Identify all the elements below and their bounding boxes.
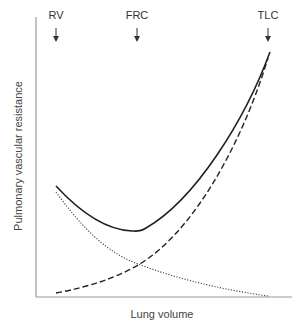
rv-arrow-icon [53, 28, 59, 42]
frc-arrow-icon [134, 28, 140, 42]
frc-label: FRC [126, 9, 149, 21]
total-pvr-curve [56, 52, 270, 231]
extra-alveolar-curve [56, 192, 268, 296]
diagram-canvas [0, 0, 297, 324]
tlc-arrow-icon [265, 28, 271, 42]
pvr-lung-volume-diagram: RV FRC TLC Pulmonary vascular resistance… [0, 0, 297, 324]
rv-label: RV [48, 9, 63, 21]
y-axis-label: Pulmonary vascular resistance [12, 76, 24, 236]
x-axis-label: Lung volume [131, 308, 194, 320]
tlc-label: TLC [258, 9, 279, 21]
alveolar-curve [56, 58, 268, 293]
